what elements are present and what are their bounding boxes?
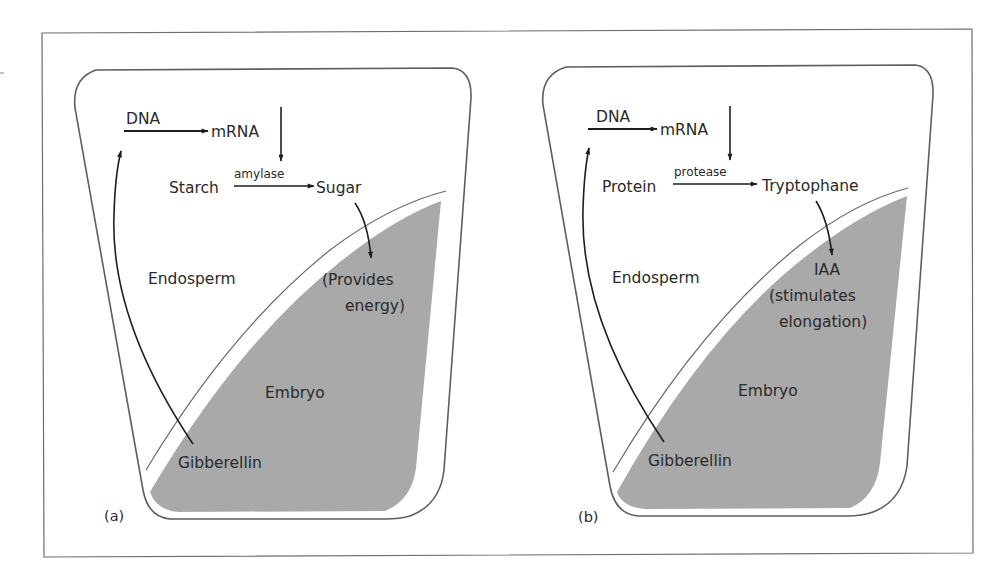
panel-a: DNA mRNA Starch amylase Sugar (Provides …	[75, 68, 471, 524]
endosperm-label: Endosperm	[148, 270, 236, 288]
product-label: Sugar	[316, 179, 362, 197]
panel-label: (b)	[578, 509, 599, 525]
mrna-label: mRNA	[660, 121, 708, 139]
effect-line-2: (stimulates	[769, 287, 856, 305]
enzyme-label: protease	[674, 165, 727, 179]
substrate-label: Starch	[169, 179, 219, 197]
endosperm-label: Endosperm	[612, 269, 700, 287]
substrate-label: Protein	[602, 178, 656, 196]
panel-b: DNA mRNA Protein protease Tryptophane IA…	[543, 65, 933, 525]
hormone-label: Gibberellin	[648, 452, 732, 470]
hormone-label: Gibberellin	[178, 454, 262, 472]
effect-line-1: IAA	[814, 261, 841, 279]
embryo-label: Embryo	[738, 382, 798, 400]
dna-label: DNA	[596, 108, 631, 126]
effect-line-3: elongation)	[779, 313, 867, 331]
embryo-label: Embryo	[265, 384, 325, 402]
panel-label: (a)	[104, 508, 124, 524]
mrna-label: mRNA	[211, 123, 259, 141]
enzyme-label: amylase	[234, 167, 284, 181]
seed-germination-diagram: DNA mRNA Starch amylase Sugar (Provides …	[0, 0, 1008, 584]
effect-line-1: (Provides	[322, 271, 394, 289]
product-label: Tryptophane	[761, 177, 859, 195]
effect-line-2: energy)	[345, 297, 405, 315]
dna-label: DNA	[126, 110, 161, 128]
